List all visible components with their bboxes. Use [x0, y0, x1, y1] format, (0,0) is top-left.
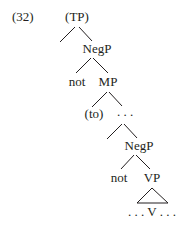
branch-ellipsis-negp — [124, 124, 137, 138]
branch-negp-not-lower — [121, 155, 134, 169]
node-mp: MP — [99, 74, 118, 89]
branch-negp-not — [76, 58, 91, 73]
terminal-string: . . . V . . . — [128, 204, 176, 219]
syntax-tree-diagram: (32) (TP) NegP not MP (to) . . . NegP no… — [0, 0, 186, 227]
node-to: (to) — [85, 106, 104, 121]
vp-triangle — [137, 188, 168, 203]
branch-mp-to — [92, 92, 107, 107]
branch-negp-vp — [136, 155, 150, 169]
branch-tp-negp — [79, 27, 92, 41]
node-negp-upper: NegP — [83, 41, 112, 56]
branch-ellipsis-left — [107, 124, 122, 139]
node-vp: VP — [144, 170, 161, 185]
node-not-upper: not — [69, 74, 86, 89]
branch-tp-left — [60, 27, 75, 42]
branch-negp-mp — [93, 58, 108, 73]
example-number: (32) — [12, 9, 34, 24]
node-negp-lower: NegP — [125, 138, 154, 153]
node-ellipsis: . . . — [117, 104, 133, 119]
node-tp: (TP) — [65, 9, 89, 24]
node-not-lower: not — [111, 170, 128, 185]
